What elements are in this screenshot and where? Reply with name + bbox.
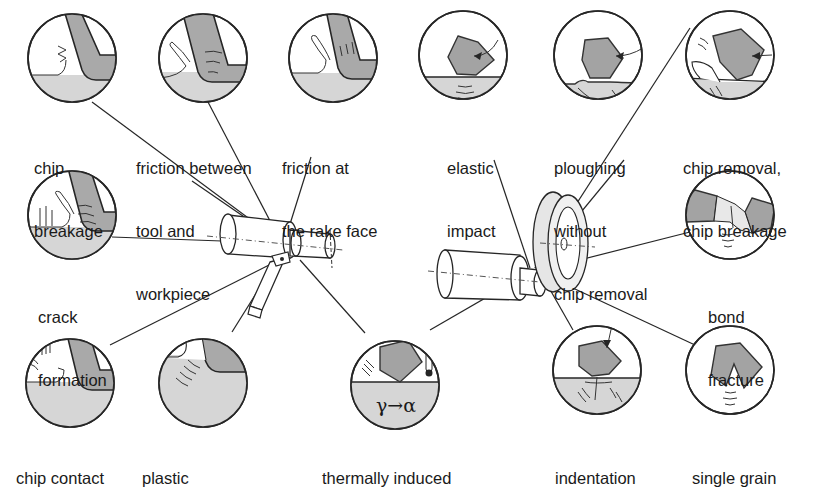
label-chip-breakage: chip breakage	[34, 116, 103, 263]
label-thermal-structural: thermally induced structural changes	[322, 426, 457, 500]
label-plastic-deformation: plastic deformation in the shear zone	[142, 426, 251, 500]
detail-circle-thermal: γ→α	[345, 340, 455, 432]
detail-circle-friction-rake-face	[280, 10, 390, 118]
detail-circle-chip-removal	[682, 11, 780, 120]
detail-circle-friction-tool-workpiece	[150, 10, 260, 117]
label-chip-contact: chip contact with tool or workpiece	[16, 426, 104, 500]
label-indentation-cracks: indentation cracks	[555, 426, 636, 500]
phase-transformation-symbol: γ→α	[376, 394, 416, 416]
label-friction-tool-workpiece: friction between tool and workpiece	[136, 116, 252, 326]
detail-circle-ploughing	[550, 11, 650, 120]
label-friction-rake-face: friction at the rake face	[282, 116, 377, 263]
label-chip-removal: chip removal, chip breakage	[683, 116, 787, 263]
detail-circle-indentation-cracks	[550, 325, 650, 418]
detail-circle-plastic-deformation	[150, 325, 260, 435]
label-elastic-impact: elastic impact	[447, 116, 496, 263]
label-ploughing: ploughing without chip removal	[554, 116, 648, 326]
detail-circle-chip-breakage	[20, 10, 130, 115]
label-bond-fracture: bond fracture	[708, 265, 764, 412]
label-single-grain-fracture: single grain fracture	[692, 426, 776, 500]
label-crack-formation: crack formation	[38, 265, 107, 412]
detail-circle-elastic-impact	[415, 11, 515, 117]
